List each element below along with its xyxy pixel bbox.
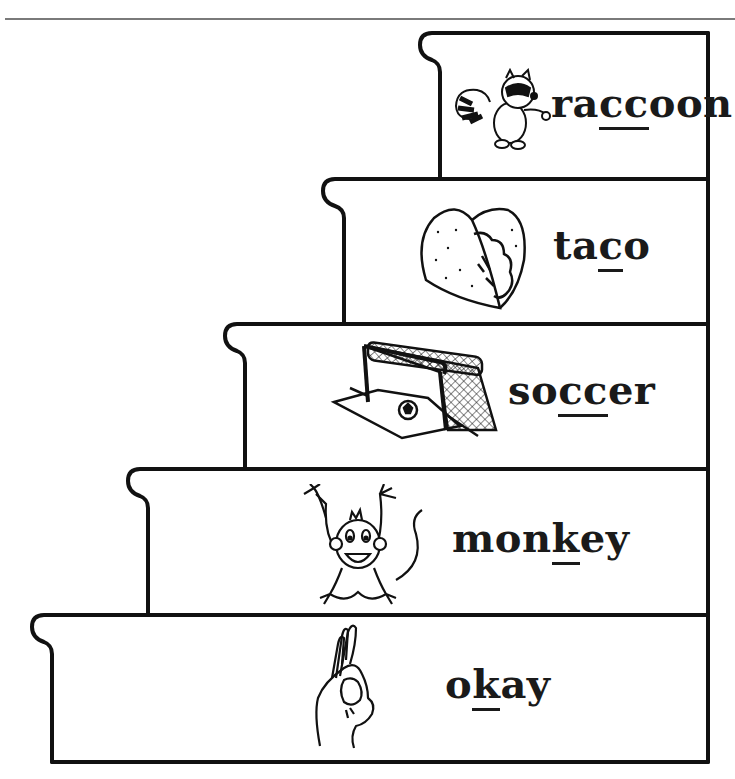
underlined-letters: cc bbox=[599, 79, 649, 130]
underlined-letters: c bbox=[598, 221, 623, 272]
underlined-letters: cc bbox=[558, 366, 608, 417]
word-taco: taco bbox=[553, 225, 650, 265]
word-part: so bbox=[508, 366, 558, 413]
taco-icon bbox=[416, 200, 540, 314]
word-part: o bbox=[623, 221, 650, 268]
underlined-letters: k bbox=[472, 660, 500, 711]
underlined-letters: k bbox=[552, 514, 580, 565]
soccer-goal-icon bbox=[328, 338, 498, 448]
word-part: ey bbox=[580, 514, 630, 561]
word-okay: okay bbox=[445, 664, 551, 704]
word-part: mon bbox=[452, 514, 552, 561]
word-part: oon bbox=[649, 79, 733, 126]
word-part: er bbox=[608, 366, 656, 413]
monkey-icon bbox=[296, 484, 436, 606]
word-part: o bbox=[445, 660, 472, 707]
ok-hand-icon bbox=[310, 624, 386, 752]
raccoon-icon bbox=[452, 68, 552, 150]
word-part: ay bbox=[500, 660, 550, 707]
word-monkey: monkey bbox=[452, 518, 630, 558]
word-raccoon: raccoon bbox=[551, 83, 733, 123]
word-part: ta bbox=[553, 221, 598, 268]
word-soccer: soccer bbox=[508, 370, 655, 410]
word-part: ra bbox=[551, 79, 599, 126]
